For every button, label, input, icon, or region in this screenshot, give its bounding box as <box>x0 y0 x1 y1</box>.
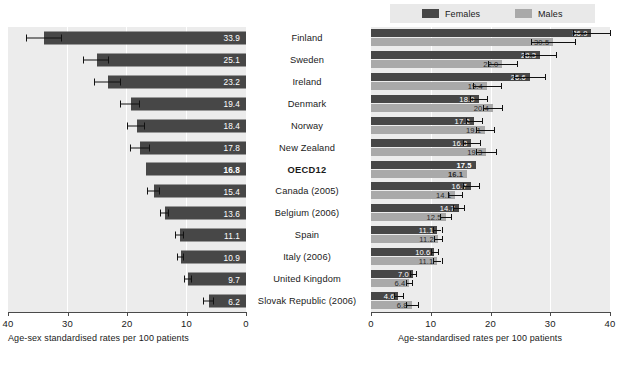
right-bar-males: 14.1 <box>371 191 455 199</box>
left-bar-row: 6.2 <box>8 290 246 312</box>
right-error-cap <box>524 52 525 58</box>
left-axis-tick <box>127 312 128 316</box>
right-bar-row: 26.619.4 <box>371 71 610 93</box>
right-error-cap <box>496 149 497 155</box>
country-label: New Zealand <box>247 143 367 153</box>
left-axis-tick <box>68 312 69 316</box>
left-bar-value-label: 23.2 <box>223 77 240 87</box>
right-error-cap <box>464 205 465 211</box>
right-bar-value-label: 11.2 <box>419 235 434 244</box>
right-bar-value-label: 11.1 <box>419 226 434 235</box>
chart-page: Females Males 33.925.123.219.418.417.816… <box>0 0 618 366</box>
right-error-cap <box>433 227 434 233</box>
left-bar: 33.9 <box>44 31 246 44</box>
left-bar-value-label: 6.2 <box>228 296 240 306</box>
right-error-cap <box>545 74 546 80</box>
country-label: OECD12 <box>247 165 367 175</box>
right-error-cap <box>476 149 477 155</box>
legend-item-males: Males <box>515 9 563 19</box>
left-bar-row: 25.1 <box>8 49 246 71</box>
right-error-bar <box>524 55 556 56</box>
left-bar-value-label: 18.4 <box>223 121 240 131</box>
right-error-cap <box>416 271 417 277</box>
left-error-cap <box>83 56 84 63</box>
right-error-cap <box>482 118 483 124</box>
left-bar-value-label: 11.1 <box>224 230 240 240</box>
country-label: Slovak Republic (2006) <box>247 296 367 306</box>
right-axis-tick <box>431 312 432 316</box>
left-error-cap <box>120 78 121 85</box>
right-bar-males: 11.2 <box>371 235 438 243</box>
left-error-cap <box>184 276 185 283</box>
right-bar-row: 14.712.5 <box>371 202 610 224</box>
left-bar-value-label: 33.9 <box>223 33 240 43</box>
left-error-cap <box>177 254 178 261</box>
left-error-bar <box>131 147 150 148</box>
left-axis-tick <box>246 312 247 316</box>
right-error-cap <box>403 293 404 299</box>
left-bar-row: 19.4 <box>8 93 246 115</box>
right-error-cap <box>434 236 435 242</box>
left-bar-row: 15.4 <box>8 180 246 202</box>
right-bar-value-label: 6.4 <box>394 279 405 288</box>
right-error-cap <box>610 30 611 36</box>
right-bar-males: 11.1 <box>371 257 437 265</box>
country-label: Sweden <box>247 55 367 65</box>
right-axis-tick <box>610 312 611 316</box>
left-axis-tick-label: 20 <box>122 318 133 329</box>
left-bar-value-label: 13.6 <box>223 208 240 218</box>
left-error-cap <box>168 210 169 217</box>
right-error-cap <box>494 127 495 133</box>
left-axis-caption: Age-sex standardised rates per 100 patie… <box>8 333 189 343</box>
left-error-cap <box>147 188 148 195</box>
left-bar: 10.9 <box>181 251 246 264</box>
right-error-bar <box>514 77 545 78</box>
left-bar-row: 23.2 <box>8 71 246 93</box>
left-bar: 25.1 <box>97 53 246 66</box>
right-error-bar <box>433 261 441 262</box>
left-bar: 19.4 <box>131 97 246 110</box>
right-bar-males: 22.0 <box>371 60 502 68</box>
right-error-cap <box>479 183 480 189</box>
left-error-bar <box>121 103 140 104</box>
country-label: Denmark <box>247 99 367 109</box>
right-error-cap <box>412 280 413 286</box>
left-error-cap <box>183 254 184 261</box>
right-error-bar <box>440 217 451 218</box>
right-error-cap <box>451 214 452 220</box>
left-bar: 23.2 <box>108 75 246 88</box>
left-axis-tick <box>187 312 188 316</box>
left-error-cap <box>139 100 140 107</box>
right-bar-value-label: 17.5 <box>456 160 471 169</box>
left-error-cap <box>203 298 204 305</box>
right-bar-row: 18.020.4 <box>371 93 610 115</box>
right-error-cap <box>410 271 411 277</box>
right-bar-value-label: 10.6 <box>415 248 430 257</box>
right-error-cap <box>488 61 489 67</box>
country-label: Finland <box>247 33 367 43</box>
right-error-cap <box>442 236 443 242</box>
left-axis-tick-label: 30 <box>62 318 73 329</box>
right-error-bar <box>406 305 418 306</box>
right-bar-row: 16.819.3 <box>371 137 610 159</box>
right-axis-tick-label: 40 <box>605 318 616 329</box>
left-bar: 17.8 <box>140 141 246 154</box>
right-bar-row: 10.611.1 <box>371 246 610 268</box>
left-bar-value-label: 9.7 <box>228 274 240 284</box>
right-error-bar <box>463 143 480 144</box>
right-bar-females: 16.7 <box>371 182 471 190</box>
left-error-cap <box>175 232 176 239</box>
right-bar-row: 17.516.1 <box>371 159 610 181</box>
left-bar-row: 9.7 <box>8 268 246 290</box>
right-error-cap <box>466 118 467 124</box>
left-bar: 18.4 <box>137 119 246 132</box>
right-error-bar <box>394 296 402 297</box>
right-error-cap <box>442 227 443 233</box>
country-label: Ireland <box>247 77 367 87</box>
right-axis-tick-label: 10 <box>425 318 436 329</box>
right-error-cap <box>483 105 484 111</box>
right-bar-males: 19.3 <box>371 148 486 156</box>
right-bar-males: 6.4 <box>371 279 409 287</box>
legend-swatch-females-icon <box>422 9 439 18</box>
right-error-cap <box>463 183 464 189</box>
